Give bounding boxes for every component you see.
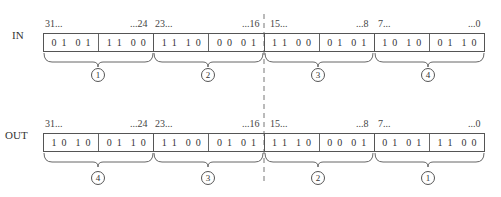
bit-index: 15...: [270, 18, 288, 29]
bit-value: 0: [325, 137, 335, 148]
bit-value: 0: [104, 137, 114, 148]
bit-value: 1: [59, 37, 69, 48]
bit-value: 1: [404, 37, 414, 48]
bit-value: 0: [214, 137, 224, 148]
bit-value: 1: [183, 37, 193, 48]
bit-value: 0: [390, 37, 400, 48]
bit-value: 1: [414, 137, 424, 148]
bit-index: 31...: [45, 118, 63, 129]
nibble: 1110: [153, 34, 208, 51]
bit-value: 0: [380, 137, 390, 148]
bit-value: 0: [349, 37, 359, 48]
bit-value: 1: [359, 137, 369, 148]
bit-value: 0: [435, 37, 445, 48]
out-register: 1010 0110 1100 0101 1110 0001 0101 1100: [43, 133, 485, 152]
group-marker-1: 1: [421, 171, 435, 185]
bit-value: 0: [304, 137, 314, 148]
nibble: 0110: [429, 34, 484, 51]
bit-value: 0: [469, 37, 479, 48]
bit-value: 0: [469, 137, 479, 148]
group-marker-4: 4: [421, 68, 435, 82]
bit-value: 1: [49, 137, 59, 148]
bit-value: 0: [49, 37, 59, 48]
bit-value: 1: [224, 137, 234, 148]
bit-value: 0: [349, 137, 359, 148]
connector-lines: [0, 0, 501, 197]
bit-value: 1: [270, 37, 280, 48]
bit-index: 15...: [270, 118, 288, 129]
nibble: 1100: [429, 134, 484, 151]
nibble: 1100: [98, 34, 153, 51]
nibble: 1100: [153, 134, 208, 151]
bit-value: 1: [445, 37, 455, 48]
bit-value: 0: [238, 37, 248, 48]
bit-value: 1: [335, 37, 345, 48]
bit-value: 0: [214, 37, 224, 48]
bit-value: 1: [270, 137, 280, 148]
bit-value: 0: [335, 137, 345, 148]
nibble: 1010: [44, 134, 98, 151]
nibble: 1010: [374, 34, 429, 51]
nibble: 1100: [264, 34, 319, 51]
group-marker-2: 2: [311, 171, 325, 185]
bit-value: 0: [193, 37, 203, 48]
bit-value: 1: [445, 137, 455, 148]
in-register: 0101 1100 1110 0001 1100 0101 1010 0110: [43, 33, 485, 52]
nibble: 0101: [44, 34, 98, 51]
bit-value: 0: [459, 137, 469, 148]
bit-value: 1: [159, 137, 169, 148]
byte-swap-diagram: IN 31... ...24 23... ...16 15... ...8 7.…: [0, 0, 501, 197]
group-marker-3: 3: [311, 68, 325, 82]
bit-index: ...8: [356, 118, 369, 129]
bit-index: ...16: [242, 118, 260, 129]
bit-value: 0: [83, 137, 93, 148]
bit-value: 0: [183, 137, 193, 148]
bit-value: 1: [280, 37, 290, 48]
bit-index: 7...: [378, 18, 391, 29]
bit-value: 1: [169, 37, 179, 48]
nibble: 0001: [208, 34, 263, 51]
bit-index: ...24: [130, 18, 148, 29]
bit-value: 0: [128, 37, 138, 48]
nibble: 0110: [98, 134, 153, 151]
nibble: 0101: [374, 134, 429, 151]
bit-index: ...0: [468, 18, 481, 29]
nibble: 0101: [319, 34, 374, 51]
bit-value: 1: [159, 37, 169, 48]
bit-value: 0: [59, 137, 69, 148]
nibble: 0001: [319, 134, 374, 151]
bit-value: 1: [104, 37, 114, 48]
group-marker-3: 3: [201, 171, 215, 185]
bit-value: 0: [138, 37, 148, 48]
bit-value: 1: [280, 137, 290, 148]
bit-value: 1: [73, 137, 83, 148]
bit-index: ...0: [468, 118, 481, 129]
bit-value: 0: [414, 37, 424, 48]
bit-value: 0: [238, 137, 248, 148]
bit-value: 1: [294, 137, 304, 148]
bit-value: 0: [138, 137, 148, 148]
bit-index: ...24: [130, 118, 148, 129]
bit-value: 0: [224, 37, 234, 48]
bit-value: 1: [114, 137, 124, 148]
bit-value: 1: [459, 37, 469, 48]
in-label: IN: [12, 29, 24, 41]
bit-value: 0: [404, 137, 414, 148]
group-marker-1: 1: [91, 68, 105, 82]
bit-value: 0: [325, 37, 335, 48]
bit-value: 1: [359, 37, 369, 48]
bit-value: 1: [114, 37, 124, 48]
group-marker-4: 4: [91, 171, 105, 185]
out-label: OUT: [5, 129, 28, 141]
nibble: 0101: [208, 134, 263, 151]
bit-value: 0: [73, 37, 83, 48]
nibble: 1110: [264, 134, 319, 151]
bit-value: 1: [380, 37, 390, 48]
bit-value: 1: [128, 137, 138, 148]
bit-value: 1: [169, 137, 179, 148]
bit-value: 1: [83, 37, 93, 48]
bit-index: ...8: [356, 18, 369, 29]
bit-value: 0: [193, 137, 203, 148]
bit-index: 23...: [155, 18, 173, 29]
bit-value: 1: [248, 137, 258, 148]
